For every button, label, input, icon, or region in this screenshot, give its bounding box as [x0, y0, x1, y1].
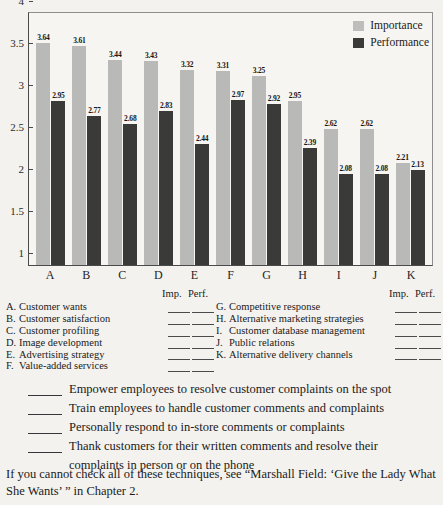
key-letter: E.: [6, 349, 19, 361]
key-blank-imp[interactable]: [168, 362, 190, 372]
bar-importance-I: 2.62: [324, 129, 338, 265]
y-axis-tick: 1.5: [10, 205, 29, 217]
key-blank-imp[interactable]: [168, 327, 190, 337]
key-text: Competitive response: [229, 301, 393, 313]
key-blank-perf[interactable]: [419, 350, 441, 360]
bar-performance-G: 2.92: [267, 104, 281, 265]
key-row: F.Value-added services: [6, 360, 214, 372]
key-text: Customer satisfaction: [19, 313, 166, 325]
key-blank-perf[interactable]: [192, 339, 214, 349]
key-letter: K.: [216, 349, 229, 361]
x-axis-label-K: K: [393, 268, 429, 283]
checklist-text: Train employees to handle customer comme…: [69, 399, 443, 418]
bar-group: 3.442.68: [105, 13, 141, 265]
key-blank-perf[interactable]: [192, 303, 214, 313]
key-blank-imp[interactable]: [168, 315, 190, 325]
legend-label-performance: Performance: [370, 35, 429, 50]
checklist-blank[interactable]: [28, 382, 62, 396]
key-list-left: A.Customer wantsB.Customer satisfactionC…: [6, 301, 214, 372]
y-axis-tick: 1: [19, 247, 30, 259]
bar-value-label: 2.21: [396, 153, 408, 162]
checklist-blank[interactable]: [28, 420, 62, 434]
key-blank-perf[interactable]: [419, 339, 441, 349]
key-blank-imp[interactable]: [395, 339, 417, 349]
bar-group: 3.312.97: [213, 13, 249, 265]
bar-value-label: 3.64: [37, 33, 49, 42]
key-row: K.Alternative delivery channels: [216, 349, 441, 361]
key-blank-perf[interactable]: [192, 350, 214, 360]
x-axis-label-H: H: [285, 268, 321, 283]
bar-value-label: 2.92: [268, 94, 280, 103]
key-header-left: Imp. Perf.: [6, 288, 214, 300]
key-blank-imp[interactable]: [168, 339, 190, 349]
bar-performance-B: 2.77: [87, 116, 101, 265]
bar-importance-K: 2.21: [396, 163, 410, 265]
key-row: H.Alternative marketing strategies: [216, 313, 441, 325]
key-column-right: Imp. Perf. G.Competitive responseH.Alter…: [216, 288, 441, 360]
key-blank-imp[interactable]: [395, 327, 417, 337]
bar-value-label: 3.44: [109, 50, 121, 59]
bar-importance-F: 3.31: [216, 71, 230, 265]
checklist-blank[interactable]: [28, 439, 62, 453]
y-axis-tick: 2.5: [10, 121, 29, 133]
x-axis-label-F: F: [212, 268, 248, 283]
key-blank-perf[interactable]: [192, 315, 214, 325]
key-blank-imp[interactable]: [168, 350, 190, 360]
y-axis-tick: 3: [19, 79, 30, 91]
bar-performance-H: 2.39: [303, 148, 317, 265]
key-row: B.Customer satisfaction: [6, 313, 214, 325]
key-blank-perf[interactable]: [192, 362, 214, 372]
key-header-right: Imp. Perf.: [216, 288, 441, 300]
key-text: Public relations: [229, 337, 393, 349]
key-blank-perf[interactable]: [192, 327, 214, 337]
x-axis-label-J: J: [357, 268, 393, 283]
key-letter: F.: [6, 360, 19, 372]
key-row: G.Competitive response: [216, 301, 441, 313]
bar-chart: 11.522.533.54 3.642.953.612.773.442.683.…: [0, 0, 443, 288]
bar-performance-F: 2.97: [231, 100, 245, 265]
bar-importance-H: 2.95: [288, 101, 302, 265]
bar-group: 2.622.08: [320, 13, 356, 265]
key-header-imp: Imp.: [162, 288, 188, 300]
bar-performance-I: 2.08: [339, 174, 353, 265]
key-text: Customer profiling: [19, 325, 166, 337]
key-blank-perf[interactable]: [419, 315, 441, 325]
bar-group: 3.612.77: [69, 13, 105, 265]
key-text: Value-added services: [19, 360, 166, 372]
worksheet-page: 11.522.533.54 3.642.953.612.773.442.683.…: [0, 0, 443, 505]
key-blank-perf[interactable]: [419, 303, 441, 313]
bar-value-label: 2.95: [52, 91, 64, 100]
checklist-text: Thank customers for their written commen…: [69, 437, 443, 456]
bar-value-label: 2.95: [289, 91, 301, 100]
key-blank-imp[interactable]: [395, 303, 417, 313]
key-blank-perf[interactable]: [419, 327, 441, 337]
legend-label-importance: Importance: [370, 18, 422, 33]
bar-value-label: 2.08: [375, 164, 387, 173]
key-blank-imp[interactable]: [395, 315, 417, 325]
bar-value-label: 2.97: [232, 90, 244, 99]
x-axis-label-A: A: [32, 268, 68, 283]
key-blank-imp[interactable]: [395, 350, 417, 360]
bar-value-label: 3.61: [73, 36, 85, 45]
bar-importance-B: 3.61: [72, 46, 86, 265]
y-axis-tick: 2: [19, 163, 30, 175]
x-axis-labels: ABCDEFGHIJK: [28, 268, 433, 283]
key-text: Alternative marketing strategies: [229, 313, 393, 325]
key-letter: J.: [216, 337, 229, 349]
bar-value-label: 2.68: [124, 114, 136, 123]
checklist-blank[interactable]: [28, 401, 62, 415]
bar-group: 3.322.44: [177, 13, 213, 265]
key-letter: A.: [6, 301, 19, 313]
key-column-left: Imp. Perf. A.Customer wantsB.Customer sa…: [6, 288, 214, 372]
bar-value-label: 3.32: [181, 60, 193, 69]
key-letter: H.: [216, 313, 229, 325]
bar-value-label: 2.44: [196, 134, 208, 143]
key-text: Alternative delivery channels: [229, 349, 393, 361]
key-header-imp-right: Imp.: [389, 288, 415, 300]
bar-performance-C: 2.68: [123, 124, 137, 265]
technique-checklist: Empower employees to resolve customer co…: [0, 380, 443, 475]
chart-legend: Importance Performance: [353, 18, 429, 52]
checklist-text: Personally respond to in-store comments …: [69, 418, 443, 437]
key-text: Customer database management: [229, 325, 393, 337]
key-blank-imp[interactable]: [168, 303, 190, 313]
